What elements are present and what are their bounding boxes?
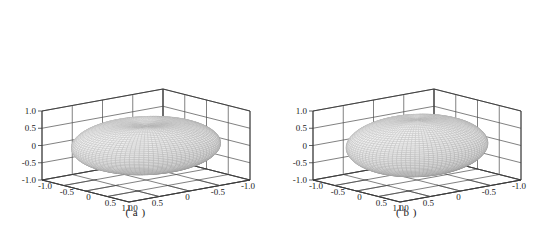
mesh-facet bbox=[406, 148, 411, 150]
mesh-facet bbox=[397, 154, 402, 156]
mesh-facet bbox=[125, 154, 130, 156]
mesh-facet bbox=[406, 169, 411, 170]
mesh-facet bbox=[141, 138, 145, 140]
mesh-facet bbox=[415, 158, 420, 160]
mesh-facet bbox=[124, 161, 129, 163]
mesh-facet bbox=[129, 158, 134, 160]
mesh-facet bbox=[134, 152, 139, 154]
mesh-facet bbox=[401, 152, 406, 154]
mesh-facet bbox=[408, 140, 412, 142]
mesh-facet bbox=[407, 170, 411, 171]
mesh-facet bbox=[139, 166, 144, 168]
mesh-facet bbox=[397, 150, 402, 152]
mesh-facet bbox=[144, 150, 149, 152]
panel-b-caption: ( b ) bbox=[271, 206, 542, 218]
mesh-facet bbox=[410, 156, 415, 158]
mesh-facet bbox=[402, 167, 407, 169]
mesh-facet bbox=[134, 164, 139, 166]
mesh-facet bbox=[129, 156, 134, 158]
mesh-facet bbox=[144, 146, 148, 148]
floor-grid-front-y bbox=[378, 190, 411, 196]
mesh-facet bbox=[415, 164, 420, 166]
mesh-facet bbox=[401, 154, 406, 156]
z-tick-label: -0.5 bbox=[293, 158, 308, 168]
mesh-facet bbox=[392, 154, 397, 156]
x-tick-label: 0 bbox=[185, 192, 190, 202]
mesh-facet bbox=[144, 142, 148, 144]
mesh-facet bbox=[129, 164, 134, 166]
mesh-facet bbox=[401, 164, 406, 166]
mesh-facet bbox=[130, 154, 135, 156]
mesh-facet bbox=[121, 124, 126, 125]
mesh-facet bbox=[407, 171, 411, 172]
mesh-facet bbox=[389, 150, 394, 152]
mesh-facet bbox=[144, 159, 149, 161]
mesh-facet bbox=[137, 140, 141, 142]
mesh-facet bbox=[419, 139, 423, 141]
mesh-facet bbox=[144, 144, 148, 146]
floor-grid-front-x bbox=[166, 185, 190, 191]
mesh-facet bbox=[418, 129, 421, 131]
mesh-facet bbox=[125, 164, 130, 166]
mesh-facet bbox=[397, 160, 402, 162]
mesh-facet bbox=[144, 153, 149, 155]
mesh-facet bbox=[130, 152, 135, 154]
mesh-facet bbox=[423, 141, 427, 143]
mesh-facet bbox=[120, 155, 125, 157]
mesh-facet bbox=[416, 126, 418, 128]
mesh-facet bbox=[392, 156, 397, 158]
mesh-facet bbox=[116, 151, 121, 153]
z-tick-label: 0.5 bbox=[25, 123, 37, 133]
mesh-facet bbox=[148, 147, 153, 149]
mesh-facet bbox=[139, 163, 144, 165]
mesh-facet bbox=[415, 137, 419, 139]
mesh-facet bbox=[415, 162, 420, 164]
mesh-facet bbox=[419, 148, 423, 150]
mesh-facet bbox=[145, 134, 148, 136]
mesh-facet bbox=[406, 166, 411, 168]
z-tick-label: 0 bbox=[303, 141, 308, 151]
mesh-facet bbox=[422, 137, 426, 139]
mesh-facet bbox=[139, 161, 144, 163]
mesh-facet bbox=[151, 137, 155, 139]
mesh-facet bbox=[392, 162, 397, 164]
mesh-facet bbox=[416, 129, 419, 131]
mesh-facet bbox=[394, 148, 399, 150]
mesh-facet bbox=[134, 154, 139, 156]
mesh-facet bbox=[406, 152, 411, 154]
mesh-facet bbox=[397, 152, 402, 154]
mesh-facet bbox=[120, 159, 125, 161]
mesh-facet bbox=[148, 140, 152, 142]
mesh-facet bbox=[129, 161, 134, 163]
mesh-facet bbox=[419, 145, 423, 147]
mesh-facet bbox=[415, 150, 419, 152]
mesh-facet bbox=[139, 154, 144, 156]
mesh-facet bbox=[411, 146, 415, 148]
mesh-facet bbox=[139, 164, 144, 166]
x-tick-label: 0 bbox=[456, 192, 461, 202]
mesh-facet bbox=[139, 152, 144, 154]
mesh-facet bbox=[406, 164, 411, 166]
mesh-facet bbox=[412, 133, 415, 135]
floor-grid-front-y bbox=[64, 179, 97, 185]
mesh-facet bbox=[145, 129, 147, 130]
mesh-facet bbox=[139, 156, 144, 158]
mesh-facet bbox=[148, 149, 153, 151]
floor-grid-front-x bbox=[437, 185, 461, 191]
mesh-facet bbox=[415, 160, 420, 162]
mesh-facet bbox=[144, 148, 148, 150]
mesh-facet bbox=[132, 144, 137, 146]
mesh-facet bbox=[121, 152, 126, 154]
mesh-facet bbox=[416, 128, 418, 130]
mesh-facet bbox=[419, 135, 422, 137]
y-tick-label: 0 bbox=[357, 192, 362, 202]
mesh-facet bbox=[418, 128, 421, 130]
mesh-facet bbox=[151, 139, 155, 141]
mesh-facet bbox=[125, 152, 130, 154]
mesh-facet bbox=[397, 158, 402, 160]
mesh-facet bbox=[130, 168, 135, 169]
mesh-facet bbox=[134, 166, 139, 167]
plot-panel-a: 1.00.50-0.5-1.01.00.50-0.5-1.0-1.0-0.500… bbox=[0, 0, 271, 241]
z-tick-label: 1.0 bbox=[25, 106, 37, 116]
mesh-facet bbox=[415, 154, 420, 156]
